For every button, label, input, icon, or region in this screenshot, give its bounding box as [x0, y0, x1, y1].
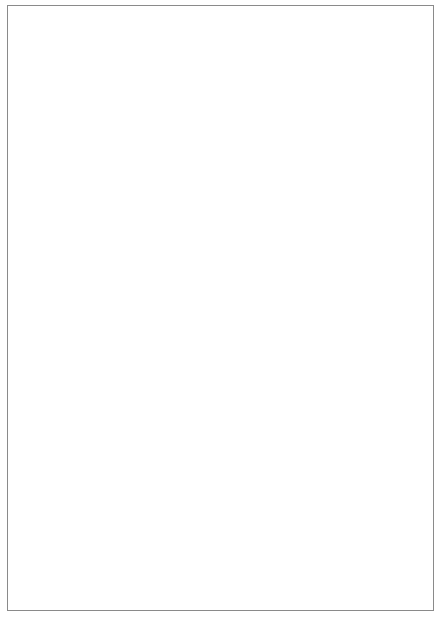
star-plot-figure — [0, 0, 440, 617]
